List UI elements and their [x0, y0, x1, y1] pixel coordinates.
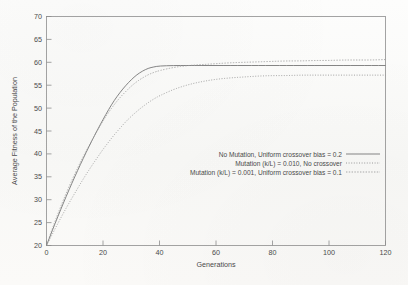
y-tick-label: 20 [34, 241, 42, 250]
x-axis: 0 20 40 60 80 100 120 Generations [45, 241, 392, 270]
chart-legend: No Mutation, Uniform crossover bias = 0.… [190, 151, 380, 177]
y-tick-label: 70 [34, 12, 42, 21]
x-tick-label: 0 [45, 248, 49, 257]
x-tick-label: 100 [323, 248, 335, 257]
y-tick-label: 55 [34, 81, 42, 90]
y-tick-label: 65 [34, 35, 42, 44]
legend-label: Mutation (k/L) = 0.010, No crossover [235, 160, 343, 168]
y-tick-label: 40 [34, 149, 42, 158]
y-tick-label: 45 [34, 127, 42, 136]
y-axis-title: Average Fitness of the Population [10, 77, 19, 185]
y-tick-group: 20 25 30 35 40 45 50 55 60 65 [34, 12, 52, 250]
x-tick-label: 20 [99, 248, 107, 257]
y-tick-label: 60 [34, 58, 42, 67]
x-tick-label: 60 [212, 248, 220, 257]
x-tick-label: 120 [380, 248, 392, 257]
legend-label: No Mutation, Uniform crossover bias = 0.… [219, 151, 343, 158]
y-axis: 20 25 30 35 40 45 50 55 60 65 [10, 12, 52, 250]
x-tick-label: 80 [269, 248, 277, 257]
x-tick-label: 40 [156, 248, 164, 257]
y-tick-label: 30 [34, 195, 42, 204]
y-tick-label: 35 [34, 172, 42, 181]
legend-label: Mutation (k/L) = 0.001, Uniform crossove… [190, 169, 342, 177]
y-tick-label: 50 [34, 104, 42, 113]
fitness-line-chart: 20 25 30 35 40 45 50 55 60 65 [0, 0, 408, 285]
chart-screenshot: 20 25 30 35 40 45 50 55 60 65 [0, 0, 408, 285]
x-axis-title: Generations [196, 260, 236, 269]
y-tick-label: 25 [34, 218, 42, 227]
